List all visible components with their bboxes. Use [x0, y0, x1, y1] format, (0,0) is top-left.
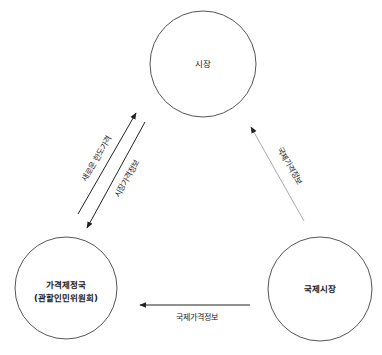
node-market-label: 시장 [195, 59, 211, 69]
node-price-bureau-label-line2: (관할인민위원회) [34, 293, 98, 303]
node-intl-market: 국제시장 [268, 237, 372, 341]
node-market: 시장 [150, 11, 256, 117]
edge-market-price-info-label: 시장가격정보 [112, 158, 142, 199]
node-intl-market-label: 국제시장 [304, 284, 336, 294]
edge-intl-price-info-to-market: 국제가격정보 [251, 127, 304, 221]
edge-new-limit-price: 새로운 한도가격 [78, 113, 136, 214]
edge-intl-price-info-to-bureau-label: 국제가격정보 [176, 312, 218, 322]
price-information-flow-diagram: 시장 가격제정국 (관할인민위원회) 국제시장 새로운 한도가격 시장가격정보 … [0, 0, 382, 355]
edge-new-limit-price-label: 새로운 한도가격 [79, 134, 113, 184]
arrow-up-right-icon [78, 113, 136, 214]
edge-intl-price-info-to-market-label: 국제가격정보 [275, 145, 305, 186]
edge-market-price-info: 시장가격정보 [87, 122, 145, 228]
node-price-bureau-label-line1: 가격제정국 [46, 280, 86, 290]
node-price-bureau: 가격제정국 (관할인민위원회) [15, 237, 117, 339]
edge-intl-price-info-to-bureau: 국제가격정보 [140, 305, 250, 322]
arrow-down-left-icon [87, 122, 145, 228]
